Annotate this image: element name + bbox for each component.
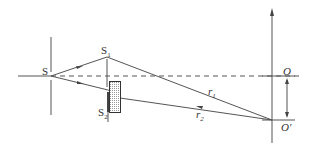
ray-arrow-s1-icon — [76, 66, 83, 69]
label-slit-s1: S1 — [101, 45, 111, 59]
dimension-arrow-up-icon — [285, 78, 289, 84]
double-slit-diagram: S S1 S2 r1 r2 O O′ — [0, 0, 311, 150]
label-slit-s2: S2 — [98, 107, 108, 121]
dimension-arrow-down-icon — [285, 112, 289, 118]
label-ray-r2: r2 — [196, 109, 204, 123]
thin-slab — [110, 82, 121, 113]
label-source-s: S — [42, 66, 48, 77]
label-ray-r1: r1 — [208, 86, 216, 100]
label-point-o-prime: O′ — [281, 122, 291, 133]
ray-arrow-s2-icon — [77, 81, 84, 84]
screen-arrow-icon — [270, 8, 274, 16]
label-point-o: O — [283, 66, 291, 77]
ray-r1 — [107, 57, 272, 120]
